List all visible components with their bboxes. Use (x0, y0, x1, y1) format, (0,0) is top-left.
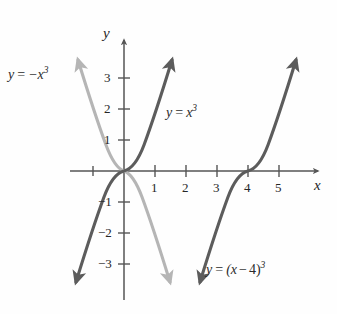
y-axis-label: y (103, 26, 110, 41)
curve-label-x-cubed: y=x3 (166, 106, 197, 120)
curve-label-x-minus-4-eq: = (215, 262, 223, 277)
x-axis (70, 165, 318, 177)
y-tick-label-3: 3 (104, 71, 111, 84)
curve-label-x-minus-4-cubed: y=(x−4)3 (206, 263, 265, 277)
x-tick-label-1: 1 (151, 181, 158, 194)
cubic-graph-figure: y x 1 2 3 4 5 3 2 1 −1 −2 −3 y=−x3 y=x3 … (0, 0, 337, 314)
curve-label-x-cubed-eq: = (175, 105, 183, 120)
x-tick-label-3: 3 (213, 181, 220, 194)
curve-label-x-minus-4-four: 4) (249, 262, 261, 277)
curve-label-neg-x-cubed-lhs: y (8, 67, 14, 82)
x-tick-label-4: 4 (244, 181, 251, 194)
y-tick-label-minus3: −3 (98, 257, 112, 270)
curve-label-neg-x-cubed-eq: = (17, 67, 25, 82)
curve-label-x-minus-4-open: (x (226, 262, 237, 277)
curve-label-neg-x-cubed: y=−x3 (8, 68, 49, 82)
curve-label-x-cubed-lhs: y (166, 105, 172, 120)
curve-label-x-minus-4-exp: 3 (261, 260, 266, 270)
curve-label-x-minus-4-minus: − (239, 262, 247, 277)
curve-label-x-cubed-exp: 3 (192, 103, 197, 113)
y-tick-label-1: 1 (104, 133, 111, 146)
y-tick-label-2: 2 (104, 102, 111, 115)
curve-label-neg-x-cubed-rhs: −x (28, 67, 44, 82)
y-tick-label-minus1: −1 (98, 195, 112, 208)
plot-canvas (0, 0, 337, 314)
x-axis-label: x (314, 178, 321, 193)
y-tick-label-minus2: −2 (98, 226, 112, 239)
x-tick-label-2: 2 (182, 181, 189, 194)
x-tick-label-5: 5 (275, 181, 282, 194)
curve-label-neg-x-cubed-exp: 3 (44, 65, 49, 75)
curve-label-x-minus-4-lhs: y (206, 262, 212, 277)
